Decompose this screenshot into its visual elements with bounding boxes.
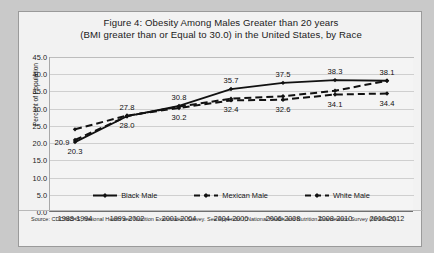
- data-label: 38.3: [328, 67, 343, 76]
- series-marker: [333, 78, 337, 82]
- chart-title-line-2: (BMI greater than or Equal to 30.0) in t…: [19, 29, 423, 41]
- chart-title: Figure 4: Obesity Among Males Greater th…: [19, 17, 423, 42]
- y-axis-tick: 35.0: [21, 87, 47, 96]
- y-axis-tick-labels: 0.05.010.015.020.025.030.035.040.045.0: [19, 57, 47, 212]
- figure-card: Figure 4: Obesity Among Males Greater th…: [18, 11, 422, 247]
- series-marker: [281, 81, 285, 85]
- chart-legend: Black MaleMexican MaleWhite Male: [49, 189, 413, 202]
- legend-item-white-male[interactable]: White Male: [304, 191, 370, 200]
- legend-label: White Male: [333, 191, 370, 200]
- y-axis-tick: 45.0: [21, 53, 47, 62]
- data-label: 34.1: [328, 99, 343, 108]
- series-marker: [385, 91, 389, 95]
- series-marker: [385, 79, 389, 83]
- chart-title-line-1: Figure 4: Obesity Among Males Greater th…: [19, 17, 423, 29]
- y-axis-tick: 15.0: [21, 156, 47, 165]
- y-axis-tick: 30.0: [21, 104, 47, 113]
- y-axis-tick: 5.0: [21, 190, 47, 199]
- series-marker: [333, 89, 337, 93]
- data-label: 30.2: [172, 112, 187, 121]
- data-label: 35.7: [224, 76, 239, 85]
- data-label: 34.4: [380, 98, 395, 107]
- data-label: 28.0: [120, 120, 135, 129]
- series-marker: [333, 92, 337, 96]
- legend-swatch-dashed-line-icon: [193, 192, 219, 199]
- y-axis-tick: 40.0: [21, 70, 47, 79]
- y-axis-tick: 25.0: [21, 121, 47, 130]
- source-note: Source: CDC/NCHS, National Health and Nu…: [31, 216, 411, 223]
- source-divider: [19, 210, 423, 211]
- legend-label: Mexican Male: [222, 191, 268, 200]
- data-label: 32.6: [276, 104, 291, 113]
- legend-label: Black Male: [121, 191, 157, 200]
- legend-swatch-dashed-line-icon: [304, 192, 330, 199]
- data-label: 20.9: [55, 138, 70, 147]
- legend-swatch-solid-line-icon: [92, 192, 118, 199]
- legend-item-mexican-male[interactable]: Mexican Male: [193, 191, 268, 200]
- series-marker: [281, 94, 285, 98]
- y-axis-tick: 20.0: [21, 139, 47, 148]
- data-label: 20.3: [68, 147, 83, 156]
- data-label: 37.5: [276, 69, 291, 78]
- data-label: 30.8: [172, 92, 187, 101]
- data-label: 27.8: [120, 103, 135, 112]
- series-marker: [229, 87, 233, 91]
- legend-item-black-male[interactable]: Black Male: [92, 191, 157, 200]
- figure-page: Figure 4: Obesity Among Males Greater th…: [0, 0, 434, 253]
- data-label: 38.1: [380, 67, 395, 76]
- y-axis-tick: 10.0: [21, 173, 47, 182]
- series-marker: [73, 127, 77, 131]
- data-label: 32.4: [224, 105, 239, 114]
